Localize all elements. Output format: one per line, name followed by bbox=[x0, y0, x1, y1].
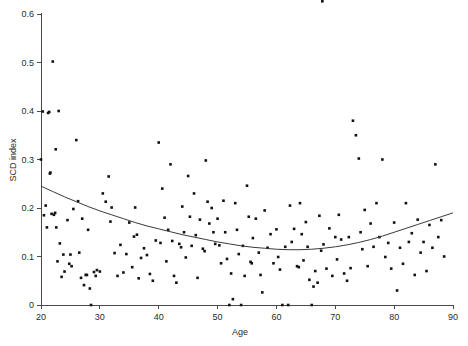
data-point bbox=[310, 304, 313, 307]
data-point bbox=[134, 206, 137, 209]
y-axis: 00.10.20.30.40.50.6 bbox=[21, 9, 41, 310]
data-point bbox=[163, 216, 166, 219]
data-point bbox=[196, 277, 199, 280]
data-point bbox=[259, 274, 262, 277]
x-axis-tick-label: 70 bbox=[330, 312, 340, 322]
data-point bbox=[75, 139, 78, 142]
data-point bbox=[149, 273, 152, 276]
data-point bbox=[60, 276, 63, 279]
data-point bbox=[381, 158, 384, 161]
data-points-layer bbox=[40, 0, 446, 306]
data-point bbox=[131, 266, 134, 269]
data-point bbox=[375, 202, 378, 205]
data-point bbox=[94, 275, 97, 278]
data-point bbox=[405, 202, 408, 205]
data-point bbox=[157, 141, 160, 144]
data-point bbox=[272, 262, 275, 265]
data-point bbox=[68, 262, 71, 265]
data-point bbox=[346, 279, 349, 282]
data-point bbox=[78, 251, 81, 254]
data-point bbox=[408, 241, 411, 244]
data-point bbox=[83, 284, 86, 287]
data-point bbox=[54, 212, 57, 215]
x-axis-tick-label: 90 bbox=[448, 312, 458, 322]
y-axis-tick-label: 0.4 bbox=[21, 106, 34, 116]
data-point bbox=[90, 304, 93, 307]
data-point bbox=[387, 242, 390, 245]
data-point bbox=[361, 248, 364, 251]
data-point bbox=[269, 233, 272, 236]
data-point bbox=[284, 246, 287, 249]
data-point bbox=[312, 285, 315, 288]
data-point bbox=[437, 236, 440, 239]
data-point bbox=[136, 233, 139, 236]
data-point bbox=[189, 215, 192, 218]
data-point bbox=[413, 274, 416, 277]
data-point bbox=[349, 267, 352, 270]
data-point bbox=[206, 200, 209, 203]
fit-curve-layer bbox=[41, 186, 453, 250]
data-point bbox=[255, 217, 258, 220]
data-point bbox=[428, 224, 431, 227]
data-point bbox=[122, 271, 125, 274]
data-point bbox=[143, 247, 146, 250]
data-point bbox=[70, 265, 73, 268]
y-axis-tick-label: 0.3 bbox=[21, 155, 34, 165]
data-point bbox=[181, 205, 184, 208]
data-point bbox=[46, 226, 49, 229]
data-point bbox=[243, 275, 246, 278]
y-axis-title: SCD index bbox=[8, 138, 18, 182]
data-point bbox=[102, 192, 105, 195]
data-point bbox=[305, 221, 308, 224]
y-axis-tick-label: 0.2 bbox=[21, 203, 34, 213]
data-point bbox=[297, 266, 300, 269]
data-point bbox=[202, 247, 205, 250]
data-point bbox=[154, 239, 157, 242]
x-axis-tick-label: 40 bbox=[154, 312, 164, 322]
data-point bbox=[89, 287, 92, 290]
data-point bbox=[263, 209, 266, 212]
data-point bbox=[43, 214, 46, 217]
data-point bbox=[137, 277, 140, 280]
data-point bbox=[161, 187, 164, 190]
data-point bbox=[240, 304, 243, 307]
data-point bbox=[54, 148, 57, 151]
data-point bbox=[434, 163, 437, 166]
data-point bbox=[93, 271, 96, 274]
data-point bbox=[384, 256, 387, 259]
data-point bbox=[402, 262, 405, 265]
data-point bbox=[237, 253, 240, 256]
data-point bbox=[257, 251, 260, 254]
data-point bbox=[416, 218, 419, 221]
data-point bbox=[107, 175, 110, 178]
data-point bbox=[222, 199, 225, 202]
data-point bbox=[159, 242, 162, 245]
data-point bbox=[171, 240, 174, 243]
data-point bbox=[184, 256, 187, 259]
x-axis-tick-label: 50 bbox=[213, 312, 223, 322]
data-point bbox=[214, 243, 217, 246]
fit-curve-line bbox=[41, 186, 453, 250]
data-point bbox=[205, 159, 208, 162]
data-point bbox=[355, 134, 358, 137]
data-point bbox=[261, 291, 264, 294]
data-point bbox=[175, 281, 178, 284]
data-point bbox=[334, 236, 337, 239]
data-point bbox=[369, 222, 372, 225]
data-point bbox=[293, 228, 296, 231]
data-point bbox=[281, 304, 284, 307]
data-point bbox=[190, 245, 193, 248]
data-point bbox=[340, 238, 343, 241]
data-point bbox=[169, 163, 172, 166]
data-point bbox=[80, 277, 83, 280]
y-axis-tick-label: 0.6 bbox=[21, 9, 34, 19]
data-point bbox=[116, 275, 119, 278]
data-point bbox=[69, 253, 72, 256]
data-point bbox=[194, 234, 197, 237]
data-point bbox=[331, 275, 334, 278]
data-point bbox=[48, 111, 51, 114]
x-axis-tick-label: 20 bbox=[36, 312, 46, 322]
data-point bbox=[109, 220, 112, 223]
data-point bbox=[183, 231, 186, 234]
data-point bbox=[187, 175, 190, 178]
